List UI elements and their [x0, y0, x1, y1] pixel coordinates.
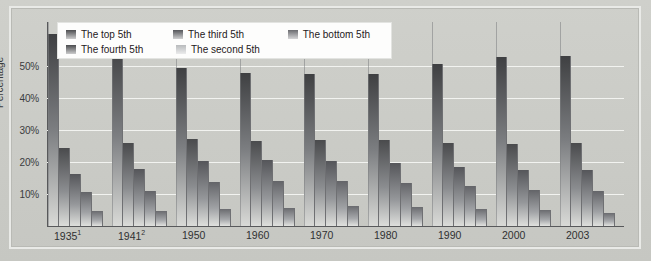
legend-item-top-5th[interactable]: The top 5th: [66, 29, 173, 40]
legend-item-second-5th[interactable]: The second 5th: [176, 44, 294, 55]
bar: [540, 210, 551, 226]
y-tick-40: 40%: [5, 93, 39, 104]
legend-swatch-icon: [66, 30, 76, 39]
legend-item-fourth-5th[interactable]: The fourth 5th: [66, 44, 176, 55]
bar: [262, 160, 273, 226]
bar: [81, 192, 92, 226]
bar: [401, 183, 412, 226]
bar: [304, 74, 315, 226]
x-axis-label: 1990: [432, 229, 496, 251]
bar: [176, 68, 187, 226]
bar-group: [560, 22, 624, 226]
chart-root: Percentage 50% 40% 30% 20% 10% 193511941…: [0, 0, 651, 261]
legend-row-1: The top 5th The third 5th The bottom 5th: [66, 27, 385, 42]
bar: [368, 74, 379, 226]
x-axis-label-superscript: 1: [77, 229, 81, 236]
legend-swatch-icon: [176, 45, 186, 54]
bar: [284, 208, 295, 226]
bar: [593, 191, 604, 226]
legend-item-third-5th[interactable]: The third 5th: [173, 29, 288, 40]
bar: [220, 209, 231, 226]
bar: [496, 57, 507, 226]
x-axis-label: 2000: [496, 229, 560, 251]
bar: [209, 182, 220, 227]
bar: [198, 161, 209, 226]
bar: [379, 140, 390, 226]
legend-label: The bottom 5th: [303, 29, 370, 40]
bar: [604, 213, 615, 226]
x-axis-label: 19412: [112, 229, 176, 251]
bar: [145, 191, 156, 226]
bar: [412, 207, 423, 226]
legend-label: The second 5th: [191, 44, 260, 55]
bar: [390, 163, 401, 226]
bar: [326, 161, 337, 226]
bar: [92, 211, 103, 226]
x-axis-labels: 19351194121950196019701980199020002003: [48, 229, 624, 251]
x-axis-tick: [560, 22, 561, 226]
bar: [112, 45, 123, 226]
bar: [156, 211, 167, 226]
bar: [59, 148, 70, 226]
bar: [476, 209, 487, 226]
bar: [465, 186, 476, 226]
x-axis-label: 19351: [48, 229, 112, 251]
legend-label: The fourth 5th: [81, 44, 143, 55]
legend-item-bottom-5th[interactable]: The bottom 5th: [288, 29, 385, 40]
bar: [518, 170, 529, 226]
bar: [529, 190, 540, 226]
x-axis-label: 1960: [240, 229, 304, 251]
legend-swatch-icon: [66, 45, 76, 54]
x-axis-tick: [48, 22, 49, 226]
y-tick-50: 50%: [5, 61, 39, 72]
bar: [187, 139, 198, 226]
bar: [273, 181, 284, 226]
bar: [454, 167, 465, 226]
bar: [571, 143, 582, 226]
y-tick-20: 20%: [5, 157, 39, 168]
x-axis-label: 1980: [368, 229, 432, 251]
bar-group: [496, 22, 560, 226]
bar: [560, 56, 571, 226]
legend-row-2: The fourth 5th The second 5th: [66, 42, 385, 57]
bar: [337, 181, 348, 226]
x-axis-label: 2003: [560, 229, 624, 251]
x-axis-label-superscript: 2: [141, 229, 145, 236]
legend-swatch-icon: [288, 30, 298, 39]
bar: [134, 169, 145, 226]
legend-swatch-icon: [173, 30, 183, 39]
y-tick-30: 30%: [5, 125, 39, 136]
bar-group: [432, 22, 496, 226]
bar: [315, 140, 326, 226]
bar: [240, 73, 251, 226]
x-axis-tick: [432, 22, 433, 226]
bar: [432, 64, 443, 226]
bar: [582, 170, 593, 226]
x-axis-tick: [496, 22, 497, 226]
x-axis-label: 1950: [176, 229, 240, 251]
chart-legend: The top 5th The third 5th The bottom 5th…: [57, 22, 392, 59]
bar: [70, 174, 81, 226]
bar: [123, 143, 134, 226]
bar: [507, 144, 518, 226]
bar: [48, 34, 59, 226]
y-tick-10: 10%: [5, 189, 39, 200]
legend-label: The top 5th: [81, 29, 132, 40]
bar: [443, 143, 454, 226]
legend-label: The third 5th: [188, 29, 244, 40]
x-axis-label: 1970: [304, 229, 368, 251]
bar: [251, 141, 262, 226]
bar: [348, 206, 359, 226]
